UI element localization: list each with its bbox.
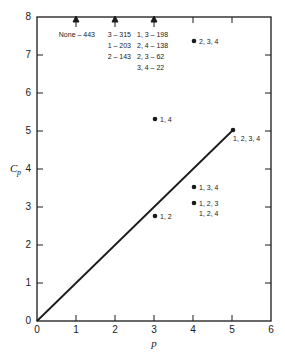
svg-text:6: 6: [268, 324, 274, 335]
svg-text:1, 3 – 198: 1, 3 – 198: [137, 31, 168, 38]
svg-text:2: 2: [112, 324, 118, 335]
x-ticks-top: [193, 17, 232, 23]
svg-text:1, 2, 3: 1, 2, 3: [199, 200, 219, 207]
svg-text:2, 4 – 138: 2, 4 – 138: [137, 42, 168, 49]
svg-text:8: 8: [25, 11, 31, 22]
point-1-2-3: [192, 201, 197, 206]
svg-text:1, 4: 1, 4: [160, 116, 172, 123]
svg-text:0: 0: [25, 315, 31, 326]
plot-frame: [37, 17, 271, 321]
svg-text:1, 2, 3, 4: 1, 2, 3, 4: [233, 135, 260, 142]
svg-text:7: 7: [25, 49, 31, 60]
point-2-3-4: [192, 39, 197, 44]
svg-text:2 – 143: 2 – 143: [108, 53, 131, 60]
svg-text:p: p: [16, 168, 21, 177]
svg-text:1, 3, 4: 1, 3, 4: [199, 184, 219, 191]
cp-equals-p-line: [37, 131, 232, 321]
x-tick-labels: 0 1 2 3 4 5 6: [34, 324, 274, 335]
svg-text:1, 2: 1, 2: [160, 213, 172, 220]
svg-text:1, 2, 4: 1, 2, 4: [199, 210, 219, 217]
svg-text:2, 3, 4: 2, 3, 4: [199, 38, 219, 45]
svg-text:4: 4: [25, 163, 31, 174]
y-ticks-left: [37, 55, 43, 283]
svg-text:1: 1: [25, 277, 31, 288]
off-chart-values: None – 443 3 – 315 1 – 203 2 – 143 1, 3 …: [59, 31, 168, 71]
svg-text:3 – 315: 3 – 315: [108, 31, 131, 38]
svg-text:2, 3 – 62: 2, 3 – 62: [137, 53, 164, 60]
svg-text:2: 2: [25, 239, 31, 250]
svg-text:None – 443: None – 443: [59, 31, 95, 38]
y-axis-title: C p: [10, 162, 21, 177]
svg-text:3, 4 – 22: 3, 4 – 22: [137, 64, 164, 71]
svg-text:1 – 203: 1 – 203: [108, 42, 131, 49]
cp-plot: 0 1 2 3 4 5 6 0 1 2 3 4 5 6 7 8 p C p No…: [0, 0, 285, 355]
point-1-2: [153, 214, 158, 219]
point-1-2-3-4: [231, 128, 236, 133]
y-ticks-right: [265, 55, 271, 283]
svg-text:5: 5: [25, 125, 31, 136]
svg-text:1: 1: [73, 324, 79, 335]
point-1-3-4: [192, 185, 197, 190]
svg-text:5: 5: [229, 324, 235, 335]
x-ticks-bottom: [76, 315, 232, 321]
svg-text:6: 6: [25, 87, 31, 98]
y-tick-labels: 0 1 2 3 4 5 6 7 8: [25, 11, 31, 326]
svg-text:0: 0: [34, 324, 40, 335]
x-axis-title: p: [150, 337, 157, 349]
point-1-4: [153, 117, 158, 122]
svg-text:3: 3: [151, 324, 157, 335]
svg-text:3: 3: [25, 201, 31, 212]
svg-text:4: 4: [190, 324, 196, 335]
